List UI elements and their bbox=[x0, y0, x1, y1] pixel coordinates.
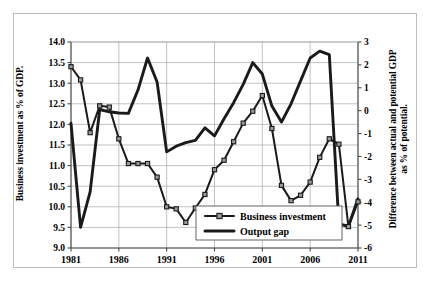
data-point-marker bbox=[78, 78, 82, 82]
data-point-marker bbox=[145, 161, 149, 165]
data-point-marker bbox=[203, 192, 207, 196]
data-point-marker bbox=[165, 205, 169, 209]
legend-label: Business investment bbox=[240, 211, 327, 222]
y-tick-label-right: -1 bbox=[364, 129, 372, 139]
y-tick-label-left: 14.0 bbox=[48, 37, 65, 47]
y-tick-label-right: -4 bbox=[364, 198, 372, 208]
y-tick-label-right: -2 bbox=[364, 152, 372, 162]
y-axis-right-ticks: -6-5-4-3-2-10123 bbox=[358, 37, 372, 253]
data-point-marker bbox=[327, 137, 331, 141]
y-tick-label-right: -3 bbox=[364, 175, 372, 185]
x-tick-label: 1996 bbox=[205, 254, 225, 265]
y-tick-label-left: 10.5 bbox=[48, 182, 65, 192]
data-point-marker bbox=[174, 207, 178, 211]
data-point-marker bbox=[98, 104, 102, 108]
y-tick-label-right: -6 bbox=[364, 243, 372, 253]
data-point-marker bbox=[69, 65, 73, 69]
y-tick-label-left: 11.0 bbox=[49, 161, 65, 171]
y-tick-label-left: 9.5 bbox=[53, 223, 65, 233]
data-point-marker bbox=[251, 109, 255, 113]
x-axis-ticks: 1981198619911996200120062011 bbox=[61, 248, 368, 265]
y-tick-label-left: 13.5 bbox=[48, 58, 65, 68]
chart-legend: Business investmentOutput gap bbox=[196, 206, 342, 240]
data-point-marker bbox=[346, 224, 350, 228]
data-point-marker bbox=[308, 180, 312, 184]
y-tick-label-left: 10.0 bbox=[48, 202, 65, 212]
y-tick-label-right: 1 bbox=[364, 83, 369, 93]
data-point-marker bbox=[117, 137, 121, 141]
data-point-marker bbox=[337, 142, 341, 146]
data-point-marker bbox=[184, 220, 188, 224]
x-tick-label: 1991 bbox=[157, 254, 177, 265]
data-point-marker bbox=[260, 93, 264, 97]
data-point-marker bbox=[126, 161, 130, 165]
x-tick-label: 2006 bbox=[300, 254, 320, 265]
chart-plot: 9.09.510.010.511.011.512.012.513.013.514… bbox=[0, 0, 430, 295]
data-point-marker bbox=[356, 200, 360, 204]
y-tick-label-right: 0 bbox=[364, 106, 369, 116]
y-tick-label-left: 12.5 bbox=[48, 99, 65, 109]
y-axis-left-ticks: 9.09.510.010.511.011.512.012.513.013.514… bbox=[48, 37, 71, 253]
data-point-marker bbox=[289, 199, 293, 203]
legend-swatch-marker bbox=[217, 213, 222, 218]
y-tick-label-right: 3 bbox=[364, 37, 369, 47]
x-tick-label: 2011 bbox=[348, 254, 367, 265]
data-point-marker bbox=[279, 183, 283, 187]
data-point-marker bbox=[299, 193, 303, 197]
data-point-marker bbox=[212, 168, 216, 172]
data-point-marker bbox=[155, 175, 159, 179]
y-tick-label-right: 2 bbox=[364, 60, 369, 70]
data-point-marker bbox=[318, 155, 322, 159]
y-tick-label-left: 9.0 bbox=[53, 243, 65, 253]
x-tick-label: 2001 bbox=[252, 254, 272, 265]
x-tick-label: 1981 bbox=[61, 254, 81, 265]
data-point-marker bbox=[136, 161, 140, 165]
y-tick-label-left: 13.0 bbox=[48, 79, 65, 89]
data-point-marker bbox=[241, 121, 245, 125]
data-point-marker bbox=[222, 158, 226, 162]
legend-label: Output gap bbox=[240, 226, 290, 237]
data-point-marker bbox=[232, 140, 236, 144]
y-tick-label-left: 11.5 bbox=[49, 140, 65, 150]
data-point-marker bbox=[270, 126, 274, 130]
y-tick-label-left: 12.0 bbox=[48, 120, 65, 130]
data-point-marker bbox=[88, 131, 92, 135]
data-point-marker bbox=[107, 105, 111, 109]
chart-figure: Business investment as % of GDP. Differe… bbox=[0, 0, 430, 295]
x-tick-label: 1986 bbox=[109, 254, 129, 265]
y-tick-label-right: -5 bbox=[364, 221, 372, 231]
